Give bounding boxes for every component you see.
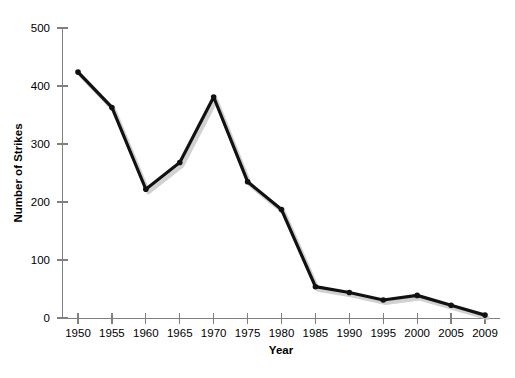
series-line-strikes [78,72,485,315]
axes-group [63,28,501,319]
y-tick-label: 500 [31,22,50,34]
x-axis-title: Year [269,344,294,356]
data-point-marker [279,207,285,213]
data-point-marker [313,284,319,290]
series-markers [75,69,488,318]
data-point-marker [245,179,251,185]
x-tick-label: 1965 [167,327,193,339]
data-point-marker [414,293,420,299]
data-point-marker [109,105,115,111]
x-tick-label: 2009 [472,327,498,339]
y-tick-label: 300 [31,138,50,150]
line-chart-svg: 0100200300400500 19501955196019651970197… [0,0,515,378]
x-tick-label: 2000 [404,327,430,339]
data-point-marker [380,297,386,303]
data-series-group [75,69,488,318]
x-tick-label: 1955 [99,327,125,339]
y-tick-label: 0 [44,312,50,324]
x-tick-label: 1975 [235,327,261,339]
x-axis-ticks: 1950195519601965197019751980198519901995… [65,313,498,339]
data-point-marker [75,69,81,75]
x-tick-label: 1960 [133,327,159,339]
data-point-marker [177,160,183,166]
data-point-marker [482,312,488,318]
data-point-marker [347,290,353,296]
y-tick-label: 100 [31,254,50,266]
y-axis-title: Number of Strikes [12,123,24,222]
x-tick-label: 1950 [65,327,91,339]
x-tick-label: 1985 [303,327,329,339]
data-point-marker [143,186,149,192]
x-tick-label: 1995 [370,327,396,339]
x-tick-label: 1970 [201,327,227,339]
chart-container: 0100200300400500 19501955196019651970197… [0,0,515,378]
data-point-marker [448,302,454,308]
x-tick-label: 1990 [337,327,363,339]
x-tick-label: 1980 [269,327,295,339]
y-tick-label: 400 [31,80,50,92]
x-tick-label: 2005 [438,327,464,339]
y-tick-label: 200 [31,196,50,208]
data-point-marker [211,94,217,100]
series-drop-shadow [81,75,488,318]
